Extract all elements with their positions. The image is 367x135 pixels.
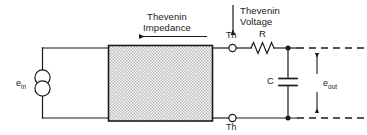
thevenin-impedance-label: Thevenin Impedance	[128, 12, 206, 34]
input-source-subscript: in	[21, 83, 26, 90]
terminal-label-top-th: Th	[226, 30, 237, 40]
capacitor-label-c: C	[267, 76, 274, 87]
junction-dot-bottom	[286, 116, 291, 121]
thevenin-voltage-line1: Thevenin	[240, 5, 280, 16]
capacitor-branch	[279, 48, 297, 118]
input-source-label: ein	[16, 78, 26, 90]
bottom-output-branch	[213, 114, 298, 121]
thevenin-voltage-line2: Voltage	[240, 16, 272, 27]
resistor-label-r: R	[259, 29, 266, 40]
junction-dot-top	[286, 46, 291, 51]
thevenin-circuit-diagram: Thevenin Impedance Thevenin Voltage Th T…	[0, 0, 367, 135]
thevenin-impedance-box	[109, 46, 213, 122]
source-loop-wires	[43, 48, 109, 118]
thevenin-impedance-line1: Thevenin	[147, 11, 187, 22]
output-voltage-subscript: out	[328, 83, 337, 90]
terminal-label-bottom-th: Th	[226, 122, 237, 132]
output-voltage-label: eout	[323, 78, 337, 90]
top-output-branch	[213, 43, 298, 54]
input-source-symbol	[35, 70, 50, 96]
thevenin-impedance-line2: Impedance	[143, 22, 191, 33]
thevenin-voltage-label: Thevenin Voltage	[240, 6, 306, 28]
